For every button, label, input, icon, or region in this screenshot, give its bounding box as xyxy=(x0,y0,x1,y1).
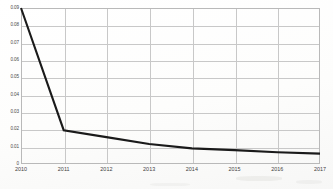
series-line xyxy=(21,8,320,154)
data-series-layer xyxy=(0,0,333,189)
line-chart: 00.010.020.030.040.050.060.070.080.09 20… xyxy=(0,0,333,189)
